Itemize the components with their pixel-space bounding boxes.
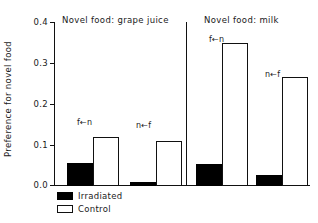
y-axis-line [54,22,55,186]
y-tick-label-0.4: 0.4 [22,17,48,28]
legend: Irradiated Control [57,190,122,216]
y-axis-label-text: Preference for novel food [3,41,13,157]
y-tick-label-text: 0.1 [24,140,48,150]
bar-control-milk-fn [222,43,248,186]
bar-control-grape-fn [93,137,119,186]
group-annotation-4: n←f [265,70,281,79]
legend-label: Irradiated [78,191,122,201]
panel-title-milk: Novel food: milk [204,15,279,25]
group-annotation-2: n←f [136,121,152,130]
y-tick-label-0.2: 0.2 [22,99,48,110]
bar-irradiated-grape-fn [67,163,93,186]
y-tick-label-text: 0.2 [24,99,48,109]
legend-label: Control [78,204,111,214]
group-annotation-1: f←n [77,118,93,127]
y-tick-label-0.1: 0.1 [22,140,48,151]
legend-item-control: Control [57,203,122,215]
bar-irradiated-milk-fn [196,164,222,186]
y-axis-label: Preference for novel food [0,24,16,174]
bar-irradiated-milk-nf [256,175,282,186]
bar-control-milk-nf [282,77,308,186]
legend-item-irradiated: Irradiated [57,190,122,202]
bar-irradiated-grape-nf [130,182,156,186]
panel-divider-line [186,22,187,185]
y-tick-label-0.0: 0.0 [22,180,48,191]
legend-swatch-icon [57,205,73,213]
y-tick-label-text: 0.3 [24,58,48,68]
legend-swatch-icon [57,192,73,200]
bar-control-grape-nf [156,141,182,186]
y-tick-label-0.3: 0.3 [22,58,48,69]
panel-title-grape-juice: Novel food: grape juice [62,15,169,25]
y-tick-label-text: 0.0 [24,180,48,190]
y-tick-label-text: 0.4 [24,17,48,27]
figure-canvas: Preference for novel food 0.4 0.3 0.2 0.… [0,0,318,223]
